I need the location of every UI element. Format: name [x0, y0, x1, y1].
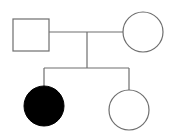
- sibship-line: [44, 68, 129, 90]
- mother-unaffected-female: [123, 12, 163, 52]
- daughter-unaffected-female: [109, 90, 149, 130]
- father-unaffected-male: [13, 19, 49, 51]
- pedigree-chart: [0, 0, 176, 137]
- daughter-affected-female: [24, 86, 64, 126]
